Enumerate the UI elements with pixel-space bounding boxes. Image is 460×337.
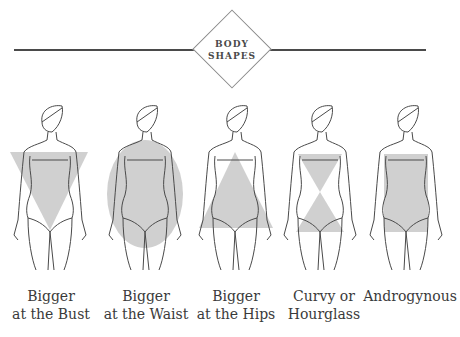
inverted-triangle-shape-icon <box>4 100 94 270</box>
rectangle-shape-icon <box>360 100 450 270</box>
hourglass-shape-icon <box>274 100 364 270</box>
oval-shape-icon <box>99 100 189 270</box>
figure-androgynous <box>360 100 450 270</box>
caption-curvy-or-hourglass: Curvy or Hourglass <box>274 287 374 323</box>
figure-bigger-at-the-waist <box>99 100 189 270</box>
caption-androgynous: Androgynous <box>360 287 460 305</box>
header-rule-right <box>266 49 426 51</box>
page-title: BODY SHAPES <box>196 38 268 62</box>
triangle-shape-icon <box>189 100 279 270</box>
caption-bigger-at-the-hips: Bigger at the Hips <box>186 287 286 323</box>
caption-bigger-at-the-bust: Bigger at the Bust <box>1 287 101 323</box>
figure-bigger-at-the-hips <box>189 100 279 270</box>
header-rule-left <box>14 49 197 51</box>
figure-bigger-at-the-bust <box>4 100 94 270</box>
caption-bigger-at-the-waist: Bigger at the Waist <box>96 287 196 323</box>
figure-curvy-or-hourglass <box>274 100 364 270</box>
